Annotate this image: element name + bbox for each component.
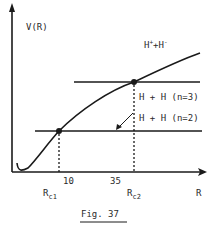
tick-label-35: 35 (110, 177, 121, 186)
rc2-sub: c2 (132, 193, 140, 201)
label-minus-sup: - (164, 38, 168, 45)
crossing-point-rc2 (131, 79, 137, 85)
ionic-curve-label: H++H- (144, 41, 168, 50)
potential-curve-diagram: V(R) H++H- H + H (n=3) H + H (n=2) 10 35… (0, 0, 211, 227)
label-plus-sup: + (149, 38, 153, 45)
rc1-label: Rc1 (43, 189, 57, 198)
rc2-label: Rc2 (127, 189, 141, 198)
level-label-n2: H + H (n=2) (139, 114, 199, 123)
x-axis-label: R (196, 189, 201, 198)
rc1-sub: c1 (48, 193, 56, 201)
y-axis-label: V(R) (26, 23, 48, 32)
ionic-potential-curve (17, 53, 200, 170)
crossing-point-rc1 (56, 128, 62, 134)
level-label-n3: H + H (n=3) (139, 93, 199, 102)
figure-caption: Fig. 37 (81, 210, 119, 219)
y-axis-arrow-icon (9, 3, 15, 12)
tick-label-10: 10 (63, 177, 74, 186)
pointer-arrow-line (118, 113, 133, 128)
